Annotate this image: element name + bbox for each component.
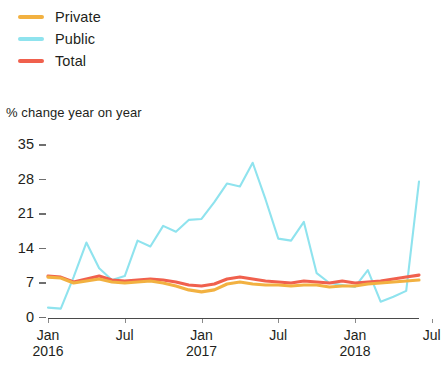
x-tick-year: 2017 (186, 343, 217, 359)
x-tick-year: 2018 (339, 343, 370, 359)
x-tick-month: Jan (344, 327, 367, 343)
x-tick-month: Jan (37, 327, 60, 343)
x-tick-label: Jan2016 (8, 327, 88, 359)
x-tick-label: Jul (392, 327, 445, 343)
series-line-public (48, 163, 419, 309)
x-tick-month: Jan (190, 327, 213, 343)
y-tick-label: 35 (4, 137, 34, 152)
y-tick-label: 21 (4, 206, 34, 221)
y-tick-label: 14 (4, 241, 34, 256)
x-tick-label: Jan2017 (162, 327, 242, 359)
y-tick-label: 7 (4, 275, 34, 290)
x-tick-mark (432, 319, 433, 323)
x-tick-month: Jul (269, 327, 287, 343)
y-tick-mark (39, 144, 46, 145)
x-tick-label: Jul (85, 327, 165, 343)
x-tick-month: Jul (423, 327, 441, 343)
x-tick-mark (278, 319, 279, 323)
x-tick-mark (48, 319, 49, 323)
y-tick-mark (39, 248, 46, 249)
y-tick-mark (39, 213, 46, 214)
x-tick-mark (355, 319, 356, 323)
x-tick-label: Jul (238, 327, 318, 343)
x-tick-mark (125, 319, 126, 323)
x-tick-label: Jan2018 (315, 327, 395, 359)
x-tick-month: Jul (116, 327, 134, 343)
y-tick-mark (39, 282, 46, 283)
y-tick-mark (39, 317, 46, 318)
y-tick-label: 28 (4, 172, 34, 187)
x-tick-year: 2016 (32, 343, 63, 359)
y-tick-label: 0 (4, 310, 34, 325)
x-tick-mark (202, 319, 203, 323)
y-tick-mark (39, 179, 46, 180)
